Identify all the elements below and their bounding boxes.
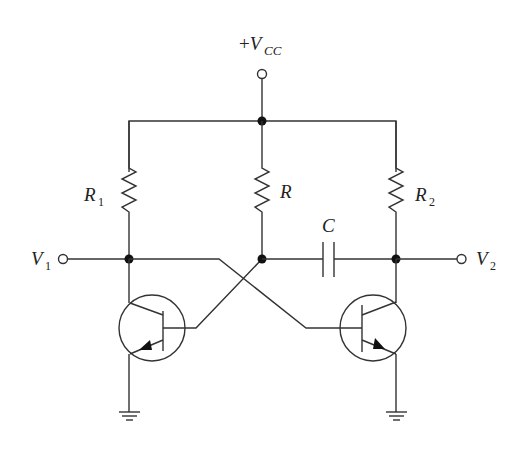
svg-text:V: V — [31, 248, 45, 269]
resistor-r — [255, 121, 269, 259]
q1-base-wire — [163, 259, 262, 328]
svg-text:2: 2 — [429, 195, 435, 209]
r2-label: R 2 — [414, 184, 435, 209]
transistor-q1 — [119, 259, 185, 412]
v1-terminal — [59, 255, 68, 264]
circuit-diagram: +V CC R 1 R R 2 V 1 — [0, 0, 516, 457]
svg-text:C: C — [322, 215, 335, 236]
vcc-terminal — [258, 70, 267, 79]
capacitor-c — [323, 242, 334, 277]
vcc-label: +V CC — [239, 33, 282, 58]
c-label: C — [322, 215, 335, 236]
svg-text:1: 1 — [45, 259, 51, 273]
resistor-r2 — [389, 121, 403, 259]
svg-text:CC: CC — [264, 43, 282, 58]
v2-terminal — [457, 255, 466, 264]
q1-emitter-arrow-icon — [139, 340, 152, 350]
r-label: R — [279, 181, 292, 202]
transistor-q2 — [340, 259, 406, 412]
q2-base-wire — [129, 259, 362, 328]
svg-text:+V: +V — [239, 33, 264, 54]
q2-emitter-arrow-icon — [373, 338, 385, 349]
svg-text:2: 2 — [490, 259, 496, 273]
v1-label: V 1 — [31, 248, 51, 273]
svg-text:R: R — [279, 181, 292, 202]
v2-label: V 2 — [476, 248, 496, 273]
svg-text:R: R — [414, 184, 427, 205]
r1-label: R 1 — [83, 184, 104, 209]
svg-text:V: V — [476, 248, 490, 269]
resistor-r1 — [122, 121, 136, 259]
ground-icon — [386, 412, 407, 420]
ground-icon — [119, 412, 140, 420]
svg-text:1: 1 — [98, 195, 104, 209]
svg-text:R: R — [83, 184, 96, 205]
